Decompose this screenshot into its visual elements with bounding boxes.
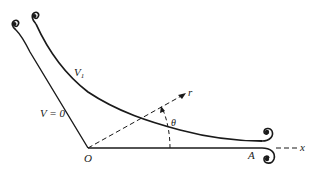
- equipotential-curve-v1: [36, 24, 262, 141]
- curl-dot-top-left: [13, 22, 17, 26]
- label-v-one: V1: [74, 66, 84, 80]
- label-angle-theta: θ: [171, 117, 176, 128]
- diagram-canvas: V = 0 V1 O A x r θ: [0, 0, 314, 171]
- label-axis-r: r: [188, 86, 193, 98]
- label-v-zero: V = 0: [40, 107, 65, 119]
- label-point-a: A: [247, 149, 255, 161]
- boundary-v-zero: [16, 30, 88, 148]
- curl-bottom-right: [262, 148, 274, 163]
- theta-arc: [163, 110, 170, 148]
- curl-dot-right-v1: [265, 130, 269, 134]
- label-origin: O: [84, 152, 92, 164]
- curl-top-v1: [32, 12, 38, 24]
- label-axis-x: x: [299, 141, 305, 153]
- r-axis-dashed: [88, 95, 183, 148]
- r-axis-arrowhead: [178, 93, 186, 99]
- label-v-one-subscript: 1: [81, 72, 85, 80]
- curl-dot-top-v1: [33, 14, 37, 18]
- curl-dot-bottom-right: [265, 157, 269, 161]
